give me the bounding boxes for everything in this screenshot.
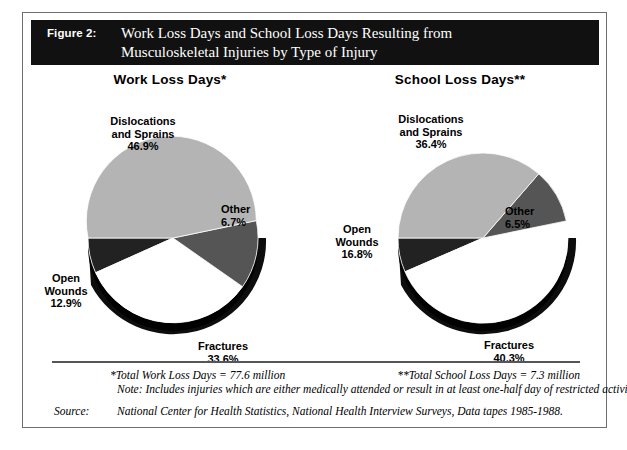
- pie-label-other-work-loss: Other 6.7%: [221, 203, 291, 228]
- pie-label-other-school-loss: Other 6.5%: [505, 205, 575, 230]
- footer-divider-rule: [52, 361, 580, 363]
- figure-number-label: Figure 2:: [47, 27, 96, 39]
- pie-value-other-school-loss: 6.5%: [505, 218, 575, 231]
- chart-panel-work-loss-days: Work Loss Days*: [25, 65, 315, 353]
- pie-label-open-wounds-work-loss: Open Wounds 12.9%: [27, 272, 105, 310]
- pie-label-open-wounds-school-loss: Open Wounds 16.8%: [317, 223, 397, 261]
- source-label: Source:: [54, 405, 89, 417]
- pie-value-fractures-work-loss: 33.6%: [175, 353, 271, 366]
- pie-label-dislocations-work-loss: Dislocations and Sprains 46.9%: [83, 115, 203, 153]
- footnote-work-loss-total: *Total Work Loss Days = 77.6 million: [110, 369, 285, 381]
- pie-value-open-wounds-school-loss: 16.8%: [317, 248, 397, 261]
- pie-label-open-wounds-work-loss-line2: Wounds: [44, 285, 87, 297]
- pie-label-dislocations-school-loss-line2: and Sprains: [400, 126, 463, 138]
- pie-value-other-work-loss: 6.7%: [221, 216, 291, 229]
- figure-container: Figure 2: Work Loss Days and School Loss…: [22, 12, 607, 428]
- pie-value-dislocations-school-loss: 36.4%: [371, 138, 491, 151]
- figure-title-line-2: Musculoskeletal Injuries by Type of Inju…: [121, 43, 591, 62]
- charts-area: Work Loss Days*: [23, 65, 606, 353]
- pie-label-fractures-school-loss-line1: Fractures: [484, 339, 534, 351]
- pie-label-dislocations-school-loss-line1: Dislocations: [398, 113, 463, 125]
- footnote-row: *Total Work Loss Days = 77.6 million **T…: [52, 369, 580, 383]
- source-text: National Center for Health Statistics, N…: [117, 405, 563, 417]
- pie-label-fractures-work-loss-line1: Fractures: [198, 340, 248, 352]
- pie-label-other-school-loss-line1: Other: [505, 205, 534, 217]
- pie-label-dislocations-work-loss-line2: and Sprains: [112, 128, 175, 140]
- pie-label-open-wounds-work-loss-line1: Open: [52, 272, 80, 284]
- pie-value-open-wounds-work-loss: 12.9%: [27, 297, 105, 310]
- pie-label-open-wounds-school-loss-line2: Wounds: [335, 236, 378, 248]
- footnote-school-loss-total: **Total School Loss Days = 7.3 million: [397, 369, 580, 381]
- pie-label-dislocations-school-loss: Dislocations and Sprains 36.4%: [371, 113, 491, 151]
- pie-value-dislocations-work-loss: 46.9%: [83, 140, 203, 153]
- pie-label-open-wounds-school-loss-line1: Open: [343, 223, 371, 235]
- figure-title: Work Loss Days and School Loss Days Resu…: [121, 24, 591, 62]
- figure-title-line-1: Work Loss Days and School Loss Days Resu…: [121, 24, 591, 43]
- footnote-note: Note: Includes injuries which are either…: [117, 383, 587, 395]
- pie-label-other-work-loss-line1: Other: [221, 203, 250, 215]
- pie-label-dislocations-work-loss-line1: Dislocations: [110, 115, 175, 127]
- figure-header-bar: Figure 2: Work Loss Days and School Loss…: [31, 20, 599, 65]
- chart-panel-school-loss-days: School Loss Days** Dislocatio: [315, 65, 605, 353]
